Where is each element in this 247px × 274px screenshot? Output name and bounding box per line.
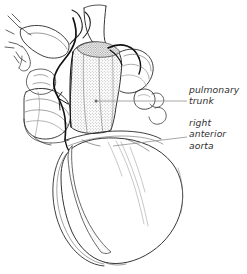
label-pulmonary-trunk-line-1: pulmonary [189, 84, 239, 95]
anatomy-figure: pulmonary trunk right anterior aorta [0, 0, 247, 274]
label-pulmonary-trunk: pulmonary trunk [189, 84, 239, 107]
left-border-detail [24, 119, 69, 145]
vessel-left-branch [22, 46, 30, 70]
label-right-anterior-aorta-line-1: right [189, 117, 226, 128]
vessel-brachiocephalic-fold [28, 33, 67, 49]
label-right-anterior-aorta: right anterior aorta [189, 117, 226, 151]
leader-dot-pulmonary-trunk [95, 100, 98, 103]
label-right-anterior-aorta-line-3: aorta [189, 140, 226, 151]
left-atrial-appendage [26, 69, 55, 94]
av-groove [66, 131, 161, 140]
ventricle-surface-creases [108, 141, 148, 226]
label-right-anterior-aorta-line-2: anterior [189, 128, 226, 139]
aorta-root-bulb [134, 89, 164, 109]
label-pulmonary-trunk-line-2: trunk [189, 95, 239, 106]
right-edge-lobe [149, 107, 166, 124]
aortic-arch-branches [5, 14, 31, 63]
right-auricle [120, 49, 153, 93]
aortic-arch-loop [70, 10, 90, 44]
drawing-ink [5, 5, 183, 266]
